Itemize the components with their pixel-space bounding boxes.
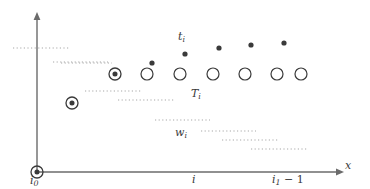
filled-dot-marker [182,51,187,56]
bullseye-markers-group [31,68,121,178]
y-axis-arrowhead [34,12,41,20]
open-circle-marker [271,68,283,80]
label-w-i-base: w [175,126,184,139]
label-tick-i-base: i [192,173,196,186]
filled-dot-marker [248,42,253,47]
label-tick-i: i [192,174,196,187]
label-t-i-sub: i [182,35,185,44]
plot-svg [0,0,370,189]
open-circle-marker [141,68,153,80]
bullseye-marker-core [69,100,74,105]
figure-canvas: ti Ti wi x i0 i i1 − 1 [0,0,370,189]
label-w-i-sub: i [184,131,187,140]
bullseye-marker-core [34,169,39,174]
open-circles-group [141,68,307,80]
label-origin-i0: i0 [30,175,39,188]
open-circle-marker [207,68,219,80]
label-t-i: ti [178,31,185,44]
dotted-segments-group [13,48,307,149]
label-origin-sub: 0 [34,179,39,188]
label-tick-i1-suffix: − 1 [281,173,304,186]
open-circle-marker [295,68,307,80]
filled-dot-marker [281,40,286,45]
x-axis-arrowhead [336,169,344,176]
filled-dots-group [149,40,286,65]
label-T-i-sub: i [198,92,201,101]
label-tick-i1-minus-1: i1 − 1 [272,174,304,187]
open-circle-marker [239,68,251,80]
label-T-i: Ti [191,88,201,101]
label-x-axis: x [345,160,351,171]
bullseye-marker-core [112,71,117,76]
axes-group [34,12,344,175]
filled-dot-marker [149,60,154,65]
open-circle-marker [174,68,186,80]
filled-dot-marker [216,45,221,50]
label-w-i: wi [175,127,187,140]
